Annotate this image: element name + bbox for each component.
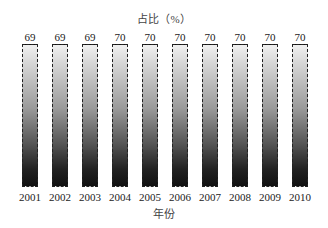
bar [82, 44, 98, 187]
bar [202, 44, 218, 187]
data-label: 70 [285, 31, 315, 43]
bar [142, 44, 158, 187]
x-tick-label: 2005 [135, 191, 165, 203]
data-label: 69 [45, 31, 75, 43]
data-label: 69 [15, 31, 45, 43]
chart-title: 占比（%） [0, 10, 328, 26]
bar [232, 44, 248, 187]
x-tick-label: 2003 [75, 191, 105, 203]
x-tick-label: 2009 [255, 191, 285, 203]
x-tick-label: 2004 [105, 191, 135, 203]
data-label: 70 [255, 31, 285, 43]
data-label: 70 [225, 31, 255, 43]
data-label: 70 [135, 31, 165, 43]
x-tick-label: 2001 [15, 191, 45, 203]
bar [112, 44, 128, 187]
x-tick-label: 2008 [225, 191, 255, 203]
data-label: 69 [75, 31, 105, 43]
x-tick-label: 2010 [285, 191, 315, 203]
bar [52, 44, 68, 187]
bar [262, 44, 278, 187]
bar [172, 44, 188, 187]
bar [292, 44, 308, 187]
x-tick-label: 2002 [45, 191, 75, 203]
x-tick-label: 2006 [165, 191, 195, 203]
bar [22, 44, 38, 187]
x-tick-label: 2007 [195, 191, 225, 203]
data-label: 70 [195, 31, 225, 43]
data-label: 70 [105, 31, 135, 43]
data-label: 70 [165, 31, 195, 43]
x-axis-label: 年份 [0, 205, 328, 221]
